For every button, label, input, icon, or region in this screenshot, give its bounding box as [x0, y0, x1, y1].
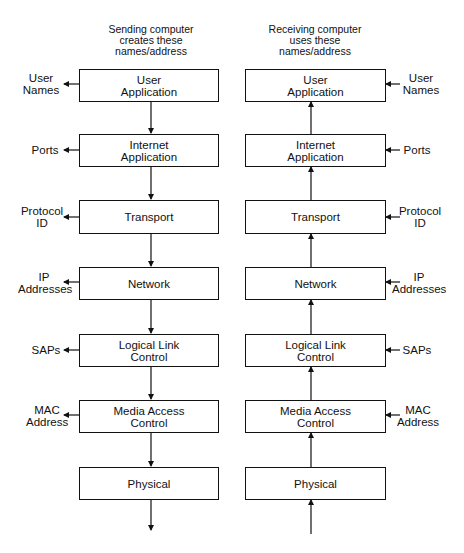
layer-label: Physical: [128, 478, 171, 490]
name-label: Address: [396, 416, 440, 428]
receiving-layer-logical-link-control: Logical LinkControl: [245, 334, 386, 367]
name-label: SAPs: [30, 344, 62, 356]
name-label: IP: [392, 271, 446, 283]
layer-label: Application: [287, 151, 343, 163]
sending-layer-media-access-control: Media AccessControl: [79, 400, 219, 433]
layer-label: Network: [294, 278, 336, 290]
receiving-name-protocol-id: Protocol ID: [397, 205, 443, 229]
layer-label: Media Access: [114, 405, 185, 417]
name-label: Ports: [400, 144, 434, 156]
sending-name-ip-addresses: IP Addresses: [18, 271, 70, 295]
receiving-name-saps: SAPs: [401, 344, 433, 356]
sending-header: Sending computer creates these names/add…: [81, 24, 221, 57]
name-label: Address: [26, 416, 68, 428]
layer-label: Network: [128, 278, 170, 290]
receiving-header-line: names/address: [245, 46, 385, 57]
name-label: User: [20, 72, 62, 84]
name-label: Protocol: [397, 205, 443, 217]
sending-header-line: names/address: [81, 46, 221, 57]
layer-label: Control: [285, 351, 346, 363]
layer-label: Logical Link: [119, 339, 180, 351]
layer-label: Logical Link: [285, 339, 346, 351]
layer-label: Physical: [294, 478, 337, 490]
sending-name-user-names: User Names: [20, 72, 62, 96]
name-label: IP: [18, 271, 70, 283]
name-label: Protocol: [20, 205, 64, 217]
receiving-name-mac-address: MAC Address: [396, 404, 440, 428]
receiving-layer-user-application: UserApplication: [245, 69, 386, 102]
layer-label: Control: [119, 351, 180, 363]
layer-label: Application: [287, 86, 343, 98]
receiving-name-user-names: User Names: [400, 72, 442, 96]
receiving-header: Receiving computer uses these names/addr…: [245, 24, 385, 57]
name-label: ID: [20, 217, 64, 229]
name-label: Addresses: [392, 283, 446, 295]
name-label: Names: [20, 84, 62, 96]
name-label: Ports: [28, 144, 62, 156]
layer-label: User: [121, 74, 177, 86]
name-label: Addresses: [18, 283, 70, 295]
sending-name-saps: SAPs: [30, 344, 62, 356]
name-label: SAPs: [401, 344, 433, 356]
receiving-layer-transport: Transport: [245, 200, 386, 234]
sending-name-mac-address: MAC Address: [26, 404, 68, 428]
name-label: MAC: [396, 404, 440, 416]
sending-layer-physical: Physical: [79, 467, 219, 500]
layer-label: Control: [114, 417, 185, 429]
layer-label: Media Access: [280, 405, 351, 417]
sending-name-arrows: [64, 84, 79, 415]
name-label: Names: [400, 84, 442, 96]
sending-name-ports: Ports: [28, 144, 62, 156]
receiving-layer-physical: Physical: [245, 467, 386, 500]
receiving-name-ports: Ports: [400, 144, 434, 156]
receiving-name-arrows: [386, 84, 400, 415]
layer-label: Transport: [125, 211, 174, 223]
sending-layer-network: Network: [79, 267, 219, 300]
name-label: MAC: [26, 404, 68, 416]
sending-layer-user-application: UserApplication: [79, 69, 219, 102]
protocol-stack-diagram: Sending computer creates these names/add…: [0, 0, 464, 553]
layer-label: User: [287, 74, 343, 86]
receiving-layer-internet-application: InternetApplication: [245, 134, 386, 167]
sending-layer-logical-link-control: Logical LinkControl: [79, 334, 219, 367]
layer-label: Internet: [121, 139, 177, 151]
sending-layer-internet-application: InternetApplication: [79, 134, 219, 167]
layer-label: Control: [280, 417, 351, 429]
name-label: User: [400, 72, 442, 84]
layer-label: Internet: [287, 139, 343, 151]
layer-label: Application: [121, 151, 177, 163]
sending-name-protocol-id: Protocol ID: [20, 205, 64, 229]
receiving-name-ip-addresses: IP Addresses: [392, 271, 446, 295]
receiving-layer-media-access-control: Media AccessControl: [245, 400, 386, 433]
name-label: ID: [397, 217, 443, 229]
sending-layer-transport: Transport: [79, 200, 219, 234]
layer-label: Transport: [291, 211, 340, 223]
layer-label: Application: [121, 86, 177, 98]
receiving-layer-network: Network: [245, 267, 386, 300]
